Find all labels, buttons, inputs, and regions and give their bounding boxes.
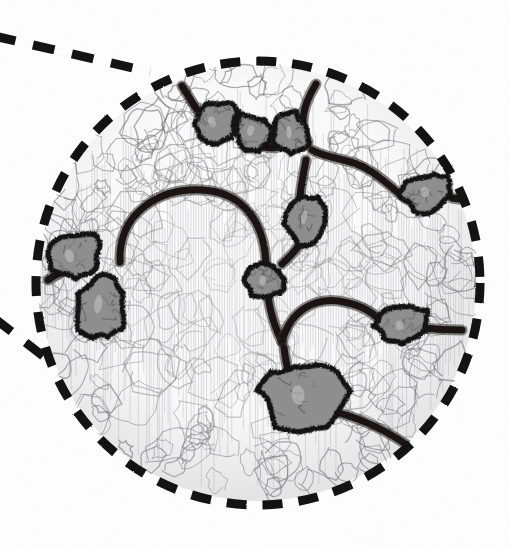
nucleus-sketch: [0, 0, 510, 546]
paper-grain: [0, 0, 510, 546]
figure-canvas: Hand-drawn nucleus cross-section sketch …: [0, 0, 510, 546]
